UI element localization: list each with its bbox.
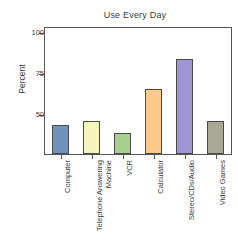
chart-figure: Use Every Day Percent 5075100 ComputerTe…: [0, 0, 238, 247]
x-tick-label: Video Games: [219, 160, 228, 244]
x-tick-label: Stereo/CDs/Audio: [188, 160, 197, 244]
x-tick-label-line: Stereo/CDs/Audio: [188, 160, 197, 244]
x-axis-labels: ComputerTelephone AnsweringMachineVCRCal…: [45, 160, 231, 246]
y-axis-ticks: 5075100: [0, 0, 44, 247]
x-tick-label: Computer: [64, 160, 73, 244]
x-tick-label-line: Video Games: [219, 160, 228, 244]
x-tick-mark: [154, 155, 155, 159]
bar: [176, 59, 192, 154]
x-tick-label: Calculator: [157, 160, 166, 244]
x-tick-mark: [216, 155, 217, 159]
chart-title: Use Every Day: [40, 10, 230, 20]
bar-series: [45, 28, 231, 154]
bar-slot: [52, 28, 68, 154]
y-tick-label: 75: [22, 70, 44, 78]
bar: [52, 125, 68, 154]
bar: [83, 121, 99, 154]
y-tick-label: 100: [22, 29, 44, 37]
x-tick-mark: [123, 155, 124, 159]
x-tick-label: VCR: [126, 160, 135, 244]
bar: [114, 133, 130, 154]
x-tick-mark: [92, 155, 93, 159]
bar-slot: [145, 28, 161, 154]
bar: [145, 89, 161, 154]
bar-slot: [207, 28, 223, 154]
bar-slot: [114, 28, 130, 154]
bar-slot: [83, 28, 99, 154]
x-tick-label-line: Machine: [104, 160, 113, 244]
x-tick-label: Telephone AnsweringMachine: [96, 160, 113, 244]
x-tick-label-line: Telephone Answering: [96, 160, 105, 244]
x-tick-label-line: Computer: [64, 160, 73, 244]
bar: [207, 121, 223, 154]
bar-slot: [176, 28, 192, 154]
y-tick-label: 50: [22, 111, 44, 119]
x-tick-mark: [61, 155, 62, 159]
x-tick-label-line: VCR: [126, 160, 135, 244]
x-tick-label-line: Calculator: [157, 160, 166, 244]
x-tick-mark: [185, 155, 186, 159]
